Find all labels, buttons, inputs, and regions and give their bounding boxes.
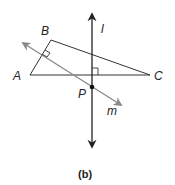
label-p: P — [78, 87, 86, 101]
label-a: A — [12, 69, 21, 83]
right-angle-marker-ac — [92, 68, 98, 75]
label-c: C — [154, 69, 163, 83]
label-l: l — [101, 22, 104, 36]
point-p — [90, 85, 95, 90]
figure-caption: (b) — [78, 168, 92, 180]
label-b: B — [41, 24, 49, 38]
geometry-diagram: A B C P l m (b) — [0, 0, 175, 185]
line-m — [23, 43, 121, 105]
label-m: m — [107, 104, 117, 118]
triangle-abc — [30, 40, 150, 75]
